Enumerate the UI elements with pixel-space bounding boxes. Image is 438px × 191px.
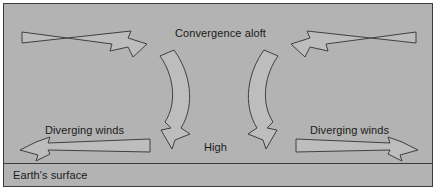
diverging-arrow-left: [20, 137, 150, 161]
subsiding-arrow-left: [160, 50, 190, 149]
label-diverging-winds-left: Diverging winds: [45, 124, 124, 137]
label-convergence-aloft: Convergence aloft: [175, 27, 266, 40]
diagram-figure: Convergence aloft High Diverging winds D…: [0, 0, 438, 191]
converging-arrow-top-left: [22, 31, 147, 57]
label-high-pressure: High: [204, 141, 227, 154]
converging-arrow-top-right: [291, 31, 416, 57]
label-diverging-winds-right: Diverging winds: [310, 124, 389, 137]
subsiding-arrow-right: [248, 50, 278, 149]
label-earths-surface: Earth's surface: [13, 169, 88, 182]
diverging-arrow-right: [296, 137, 418, 161]
